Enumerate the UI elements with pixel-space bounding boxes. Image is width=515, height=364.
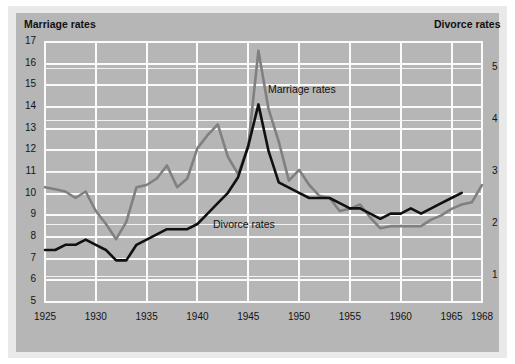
x-axis-tick-label: 1945: [228, 311, 268, 322]
right-axis-title: Divorce rates: [434, 18, 501, 30]
x-axis-tick-label: 1925: [25, 311, 65, 322]
x-axis-tick-label: 1930: [76, 311, 116, 322]
y-axis-tick-label: 10: [12, 187, 36, 198]
y-axis-tick-label: 17: [12, 35, 36, 46]
y-axis-tick-label: 16: [12, 57, 36, 68]
x-axis-tick-label: 1968: [462, 311, 502, 322]
y2-axis-tick-label: 5: [492, 61, 515, 72]
y2-axis-tick-label: 2: [492, 217, 515, 228]
y-axis-tick-label: 15: [12, 78, 36, 89]
series-line-divorce: [45, 104, 462, 260]
left-axis-title: Marriage rates: [24, 18, 96, 30]
divorce-series-annotation: Divorce rates: [213, 218, 275, 230]
y-axis-tick-label: 5: [12, 295, 36, 306]
series-layer: [44, 41, 483, 303]
y2-axis-tick-label: 4: [492, 113, 515, 124]
x-axis-tick-label: 1960: [381, 311, 421, 322]
x-axis-tick-label: 1950: [279, 311, 319, 322]
plot-area: [44, 41, 483, 303]
chart-figure: Marriage rates Divorce rates Marriage ra…: [0, 0, 515, 364]
y-axis-tick-label: 9: [12, 208, 36, 219]
y-axis-tick-label: 8: [12, 230, 36, 241]
y-axis-tick-label: 13: [12, 122, 36, 133]
x-axis-tick-label: 1955: [330, 311, 370, 322]
y-axis-tick-label: 12: [12, 143, 36, 154]
x-axis-tick-label: 1940: [177, 311, 217, 322]
y-axis-tick-label: 7: [12, 252, 36, 263]
y2-axis-tick-label: 3: [492, 165, 515, 176]
marriage-series-annotation: Marriage rates: [268, 83, 336, 95]
y-axis-tick-label: 11: [12, 165, 36, 176]
x-axis-tick-label: 1935: [127, 311, 167, 322]
y-axis-tick-label: 6: [12, 273, 36, 284]
y-axis-tick-label: 14: [12, 100, 36, 111]
y2-axis-tick-label: 1: [492, 269, 515, 280]
